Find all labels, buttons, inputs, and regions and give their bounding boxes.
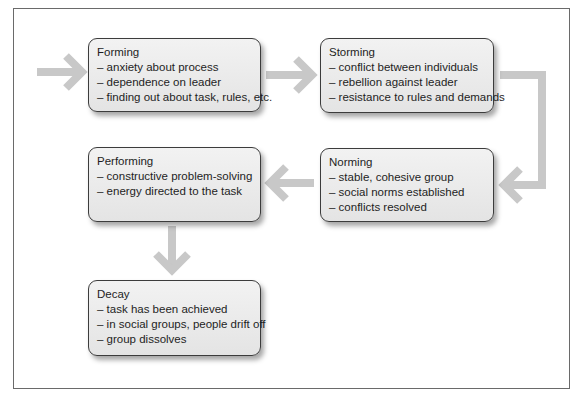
arrow-left-icon [270, 167, 314, 199]
stage-item: – conflicts resolved [329, 200, 485, 215]
stage-box-decay: Decay – task has been achieved – in soci… [88, 280, 261, 356]
stage-item: – constructive problem-solving [97, 169, 252, 184]
stage-item: – social norms established [329, 185, 485, 200]
stage-title: Storming [329, 45, 485, 60]
stage-item: – anxiety about process [97, 60, 252, 75]
stage-item: – rebellion against leader [329, 75, 485, 90]
stage-item: – resistance to rules and demands [329, 90, 485, 105]
entry-arrow-icon [37, 56, 82, 88]
stage-title: Performing [97, 154, 252, 169]
stage-box-performing: Performing – constructive problem-solvin… [88, 147, 261, 222]
stage-item: – dependence on leader [97, 75, 252, 90]
stage-item: – finding out about task, rules, etc. [97, 90, 252, 105]
stage-title: Forming [97, 45, 252, 60]
stage-item: – energy directed to the task [97, 184, 252, 199]
stage-item: – in social groups, people drift off [97, 317, 252, 332]
stage-item: – task has been achieved [97, 302, 252, 317]
stage-item: – conflict between individuals [329, 60, 485, 75]
stage-box-forming: Forming – anxiety about process – depend… [88, 38, 261, 112]
stage-title: Decay [97, 287, 252, 302]
stage-title: Norming [329, 155, 485, 170]
arrow-down-icon [156, 226, 188, 270]
stage-box-storming: Storming – conflict between individuals … [320, 38, 494, 113]
stage-item: – group dissolves [97, 332, 252, 347]
stage-box-norming: Norming – stable, cohesive group – socia… [320, 148, 494, 222]
arrow-right-icon [266, 59, 312, 91]
arrow-elbow-icon [500, 75, 542, 201]
stage-item: – stable, cohesive group [329, 170, 485, 185]
